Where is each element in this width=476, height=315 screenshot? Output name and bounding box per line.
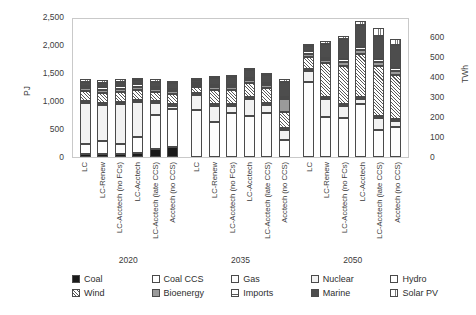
bar-segment-wind: [244, 83, 255, 97]
y-tick-right: 0: [430, 153, 435, 162]
bar-group-2020: [73, 19, 185, 157]
bar-segment-wind: [115, 92, 126, 102]
bar-2035-lc-acctech-late-ccs-[interactable]: [261, 73, 272, 157]
category-label-cell: LC: [303, 160, 314, 252]
legend-item-gas[interactable]: Gas: [231, 274, 311, 284]
legend-label: Coal CCS: [164, 274, 204, 284]
bar-segment-nuclear: [303, 71, 314, 82]
bar-segment-wind: [373, 66, 384, 116]
bar-segment-wind: [150, 92, 161, 101]
legend-swatch-icon: [72, 289, 80, 297]
legend-item-imports[interactable]: Imports: [231, 288, 311, 298]
legend-swatch-icon: [152, 275, 160, 283]
category-label: LC-Acctech (no FCs): [227, 162, 236, 233]
category-label-cell: Acctech (no CCS): [391, 160, 402, 252]
bar-segment-bioenergy: [279, 99, 290, 112]
bar-2020-acctech-no-ccs-[interactable]: [167, 81, 178, 157]
bar-groups: [73, 19, 408, 157]
category-label-cell: LC-Acctech (late CCS): [149, 160, 160, 252]
category-label-cell: LC-Renew: [209, 160, 220, 252]
legend-item-coal[interactable]: Coal: [72, 274, 152, 284]
bar-segment-nuclear: [80, 103, 91, 144]
y-tick-right: 200: [430, 113, 444, 122]
bar-segment-coal: [150, 149, 161, 157]
bar-segment-nuclear: [320, 99, 331, 116]
bar-2050-lc-renew[interactable]: [320, 41, 331, 157]
bar-2035-lc[interactable]: [191, 78, 202, 157]
bar-2050-lc-acctech-late-ccs-[interactable]: [373, 28, 384, 157]
category-label-group-2035: LCLC-RenewLC-Acctech (no FCs)LC-AcctechL…: [184, 160, 296, 252]
y-tick-right: 500: [430, 53, 444, 62]
legend-item-nuclear[interactable]: Nuclear: [311, 274, 391, 284]
bar-2020-lc[interactable]: [80, 79, 91, 157]
category-label-cell: LC: [191, 160, 202, 252]
bar-segment-marine: [355, 25, 366, 47]
category-label-cell: LC: [79, 160, 90, 252]
category-label: LC-Acctech (no FCs): [115, 162, 124, 233]
chart-figure: PJ TWh 05001,0001,5002,0002,500 01002003…: [0, 0, 476, 315]
bar-segment-wind: [167, 94, 178, 104]
bar-2050-lc-acctech-no-fcs-[interactable]: [338, 36, 349, 158]
legend-label: Bioenergy: [164, 288, 205, 298]
bar-2050-lc-acctech[interactable]: [355, 21, 366, 157]
bar-2035-lc-acctech[interactable]: [244, 68, 255, 157]
legend-swatch-icon: [152, 289, 160, 297]
category-label: LC-Acctech: [245, 162, 254, 201]
category-label: LC-Acctech (no FCs): [339, 162, 348, 233]
bar-segment-gas: [320, 117, 331, 157]
legend-item-bioenergy[interactable]: Bioenergy: [152, 288, 232, 298]
legend-item-solar-pv[interactable]: Solar PV: [390, 288, 470, 298]
bar-2035-lc-renew[interactable]: [209, 76, 220, 157]
category-label: LC: [304, 162, 313, 172]
category-label: Acctech (no CCS): [392, 162, 401, 223]
category-label-group-2050: LCLC-RenewLC-Acctech (no FCs)LC-AcctechL…: [297, 160, 409, 252]
legend-label: Solar PV: [402, 288, 438, 298]
legend-swatch-icon: [231, 289, 239, 297]
bar-2020-lc-renew[interactable]: [97, 80, 108, 157]
legend-item-marine[interactable]: Marine: [311, 288, 391, 298]
legend-item-wind[interactable]: Wind: [72, 288, 152, 298]
category-label-cell: LC-Acctech (no FCs): [338, 160, 349, 252]
bar-segment-wind: [226, 90, 237, 104]
bar-segment-marine: [226, 77, 237, 85]
bar-segment-nuclear: [373, 118, 384, 131]
bar-2020-lc-acctech-no-fcs-[interactable]: [115, 79, 126, 157]
category-label-cell: LC-Acctech (no FCs): [114, 160, 125, 252]
legend-swatch-icon: [231, 275, 239, 283]
legend-label: Wind: [84, 288, 105, 298]
bar-2035-lc-acctech-no-fcs-[interactable]: [226, 75, 237, 157]
bar-2020-lc-acctech[interactable]: [132, 78, 143, 158]
bar-segment-gas: [261, 113, 272, 157]
group-label-2035: 2035: [184, 255, 296, 269]
bar-segment-marine: [320, 44, 331, 58]
bar-segment-nuclear: [279, 130, 290, 141]
category-label-cell: LC-Acctech (no FCs): [226, 160, 237, 252]
category-label-cell: LC-Renew: [321, 160, 332, 252]
bar-2020-lc-acctech-late-ccs-[interactable]: [150, 79, 161, 157]
legend-item-coal-ccs[interactable]: Coal CCS: [152, 274, 232, 284]
bar-segment-nuclear: [115, 104, 126, 144]
legend-label: Nuclear: [323, 274, 354, 284]
y-axis-title-left: PJ: [22, 86, 32, 96]
legend-item-hydro[interactable]: Hydro: [390, 274, 470, 284]
category-label: LC-Renew: [97, 162, 106, 198]
legend-swatch-icon: [311, 275, 319, 283]
bar-segment-marine: [244, 70, 255, 78]
bar-segment-nuclear: [209, 106, 220, 122]
bar-2050-acctech-no-ccs-[interactable]: [390, 39, 401, 157]
bar-segment-gas: [191, 110, 202, 157]
bar-segment-wind: [97, 93, 108, 103]
legend-swatch-icon: [311, 289, 319, 297]
category-label: Acctech (no CCS): [168, 162, 177, 223]
bar-segment-gas: [338, 118, 349, 157]
y-tick-left: 2,000: [43, 41, 64, 50]
bar-segment-marine: [373, 36, 384, 58]
bar-segment-gas: [80, 144, 91, 154]
y-axis-title-right: TWh: [460, 65, 470, 83]
bar-2050-lc[interactable]: [303, 44, 314, 157]
category-label: Acctech (no CCS): [280, 162, 289, 223]
bar-segment-nuclear: [132, 102, 143, 138]
category-label: LC-Renew: [322, 162, 331, 198]
y-tick-left: 500: [50, 125, 64, 134]
bar-2035-acctech-no-ccs-[interactable]: [279, 79, 290, 157]
